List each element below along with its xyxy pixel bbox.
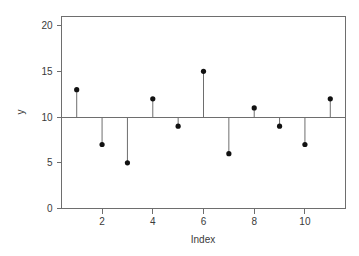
data-point (252, 105, 257, 110)
x-tick-label: 6 (201, 216, 207, 227)
data-point (99, 142, 104, 147)
data-point (201, 69, 206, 74)
y-tick-label: 20 (41, 20, 53, 31)
data-point (328, 96, 333, 101)
y-tick-label: 10 (41, 112, 53, 123)
x-tick-label: 10 (299, 216, 311, 227)
data-point (125, 160, 130, 165)
y-axis-ticks: 05101520 (41, 20, 61, 214)
plot-canvas: 05101520 246810 Index y (0, 0, 359, 256)
x-axis-ticks: 246810 (99, 209, 311, 227)
data-point (150, 96, 155, 101)
stem-plot-figure: 05101520 246810 Index y (0, 0, 359, 256)
data-point (302, 142, 307, 147)
y-axis-title: y (15, 110, 26, 115)
y-tick-label: 15 (41, 66, 53, 77)
y-tick-label: 5 (47, 157, 53, 168)
x-tick-label: 2 (99, 216, 105, 227)
data-point (277, 124, 282, 129)
y-tick-label: 0 (47, 203, 53, 214)
data-point (74, 87, 79, 92)
x-tick-label: 8 (251, 216, 257, 227)
data-point (176, 124, 181, 129)
x-axis-title: Index (191, 234, 215, 245)
x-tick-label: 4 (150, 216, 156, 227)
data-point (226, 151, 231, 156)
